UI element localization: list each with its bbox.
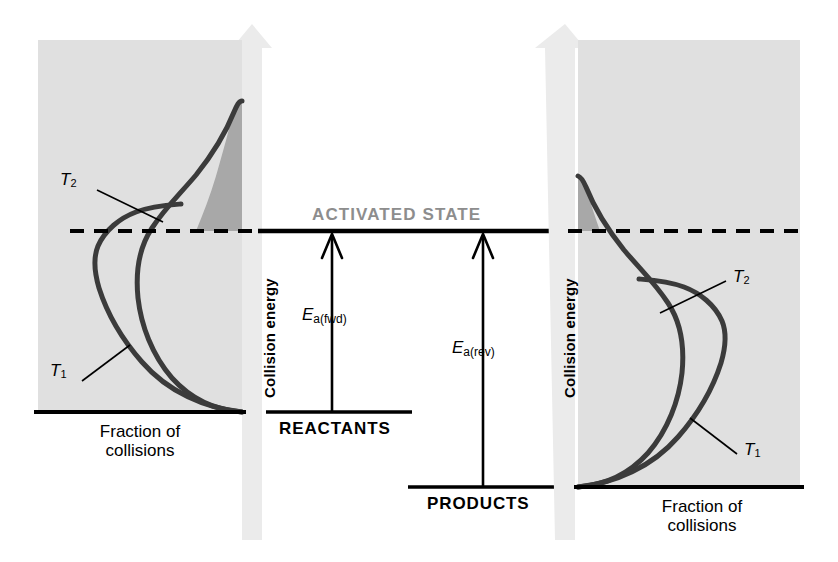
right-t2-subscript: 2 [743, 274, 749, 286]
left-curve-label-t2: T2 [60, 170, 77, 190]
left-t2-subscript: 2 [70, 177, 76, 189]
reactants-label: REACTANTS [279, 419, 391, 438]
reaction-energy-diagram: Collision energy Fraction of collisions … [0, 0, 838, 562]
left-t2-symbol: T [60, 170, 70, 189]
right-axis-label-collision-energy: Collision energy [562, 278, 579, 398]
ea-reverse-arrow-icon [473, 234, 493, 487]
ea-reverse-symbol: E [452, 338, 463, 357]
products-label: PRODUCTS [427, 494, 530, 513]
ea-forward-label: Ea(fwd) [302, 305, 347, 326]
right-curve-label-t1: T1 [744, 440, 761, 460]
ea-reverse-subscript: a(rev) [463, 345, 494, 359]
activated-state-label: ACTIVATED STATE [312, 205, 481, 224]
left-x-axis-label-line1: Fraction of [100, 422, 180, 441]
right-t1-subscript: 1 [754, 447, 760, 459]
right-t2-symbol: T [733, 267, 743, 286]
right-x-axis-label: Fraction of collisions [620, 497, 784, 535]
right-x-axis-label-line2: collisions [668, 516, 737, 535]
left-t1-symbol: T [50, 361, 60, 380]
left-curve-label-t1: T1 [50, 361, 67, 381]
right-curve-label-t2: T2 [733, 267, 750, 287]
ea-forward-symbol: E [302, 305, 313, 324]
left-x-axis-label-line2: collisions [106, 441, 175, 460]
diagram-canvas [0, 0, 838, 562]
right-t1-symbol: T [744, 440, 754, 459]
ea-forward-subscript: a(fwd) [313, 312, 346, 326]
left-t1-subscript: 1 [60, 368, 66, 380]
ea-reverse-label: Ea(rev) [452, 338, 495, 359]
left-x-axis-label: Fraction of collisions [58, 422, 222, 460]
right-x-axis-label-line1: Fraction of [662, 497, 742, 516]
left-axis-label-collision-energy: Collision energy [262, 278, 279, 398]
